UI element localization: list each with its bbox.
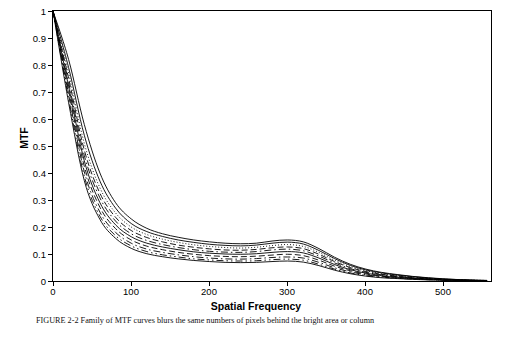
y-tick-label: 0.1 <box>2 249 46 260</box>
mtf-curves-svg <box>53 11 491 281</box>
x-tick-mark <box>131 282 132 286</box>
x-tick-mark <box>53 282 54 286</box>
y-tick-label: 0 <box>2 276 46 287</box>
x-tick-label: 300 <box>279 286 295 297</box>
y-tick-mark <box>48 11 52 12</box>
y-tick-mark <box>48 119 52 120</box>
y-tick-label: 0.8 <box>2 60 46 71</box>
mtf-curve <box>53 11 487 281</box>
y-tick-mark <box>48 65 52 66</box>
x-tick-mark <box>209 282 210 286</box>
x-tick-label: 100 <box>123 286 139 297</box>
x-tick-label: 0 <box>50 286 55 297</box>
x-axis-title: Spatial Frequency <box>0 300 512 312</box>
y-axis-title: MTF <box>18 108 30 168</box>
figure-caption: FIGURE 2-2 Family of MTF curves blurs th… <box>36 316 496 326</box>
y-tick-mark <box>48 38 52 39</box>
y-tick-label: 0.2 <box>2 222 46 233</box>
y-tick-mark <box>48 200 52 201</box>
y-tick-label: 0.3 <box>2 195 46 206</box>
y-tick-label: 0.9 <box>2 33 46 44</box>
y-tick-mark <box>48 146 52 147</box>
y-tick-mark <box>48 92 52 93</box>
y-tick-label: 0.4 <box>2 168 46 179</box>
y-tick-mark <box>48 254 52 255</box>
x-tick-mark <box>365 282 366 286</box>
x-tick-label: 500 <box>435 286 451 297</box>
y-tick-mark <box>48 281 52 282</box>
figure-root: 1 0.9 0.8 0.7 0.6 0.5 0.4 0.3 0.2 0.1 0 … <box>0 0 512 341</box>
x-tick-label: 400 <box>357 286 373 297</box>
plot-area <box>52 10 492 282</box>
y-tick-mark <box>48 173 52 174</box>
y-tick-label: 0.7 <box>2 87 46 98</box>
y-tick-label: 1 <box>2 6 46 17</box>
y-tick-mark <box>48 227 52 228</box>
x-tick-mark <box>443 282 444 286</box>
x-tick-label: 200 <box>201 286 217 297</box>
x-tick-mark <box>287 282 288 286</box>
